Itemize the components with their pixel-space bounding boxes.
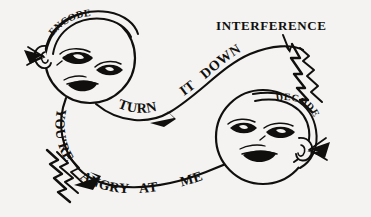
word-youre: YOU'RE [52, 108, 76, 165]
incoming-message-text: YOU'RE ANGRY AT ME [52, 108, 204, 197]
communication-diagram: ENCODE [0, 0, 371, 217]
word-me: ME [178, 168, 205, 189]
word-angry: ANGRY [78, 168, 130, 196]
word-at: AT [138, 179, 159, 196]
encoder-face: ENCODE [24, 7, 138, 103]
word-it: IT [177, 77, 199, 98]
interference-label: INTERFERENCE [216, 18, 327, 33]
decoder-face: DECODE [216, 90, 330, 184]
word-turn: TURN [116, 96, 158, 115]
diagram-canvas: ENCODE [0, 0, 371, 217]
